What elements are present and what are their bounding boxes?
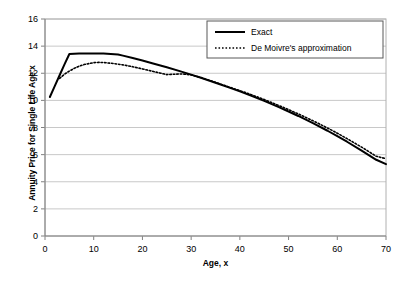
x-axis-title: Age, x: [45, 258, 386, 268]
y-tick-label: 16: [28, 14, 38, 24]
y-tick-label: 0: [33, 231, 38, 241]
x-tick-label: 0: [42, 244, 47, 254]
x-tick-label: 40: [235, 244, 245, 254]
annuity-price-line-chart: 0246810121416 010203040506070 Exact De M…: [0, 0, 404, 284]
x-axis: 010203040506070: [42, 236, 391, 254]
y-axis-title: Annuity Price for Single Life Age x: [27, 43, 37, 223]
x-tick-label: 10: [89, 244, 99, 254]
legend: Exact De Moivre's approximation: [207, 21, 383, 58]
x-tick-label: 60: [332, 244, 342, 254]
legend-label-de-moivre-approximation: De Moivre's approximation: [251, 43, 352, 53]
x-tick-label: 70: [381, 244, 391, 254]
x-tick-label: 20: [137, 244, 147, 254]
x-tick-label: 50: [284, 244, 294, 254]
legend-label-exact: Exact: [251, 27, 273, 37]
x-tick-label: 30: [186, 244, 196, 254]
chart-canvas: 0246810121416 010203040506070 Exact De M…: [0, 0, 404, 284]
